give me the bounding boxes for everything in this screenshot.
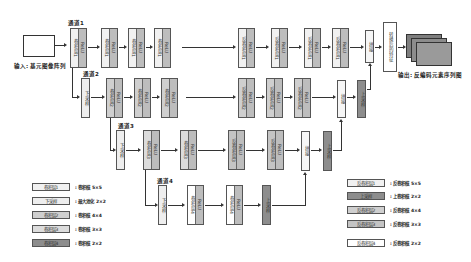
output-stack-front bbox=[416, 42, 452, 66]
concat-block-3: 拼接 bbox=[301, 131, 310, 171]
legend-left-row-2: 下采样 : 最大池化 2×2 bbox=[32, 196, 106, 205]
deconv3-block-a: 反卷积层3 ReLU bbox=[228, 130, 245, 170]
deconv2-block-b: 反卷积层2 ReLU bbox=[266, 78, 283, 118]
conv1-block-b: 卷积层1 ReLU bbox=[101, 28, 118, 68]
channel-3-label: 通道3 bbox=[118, 122, 134, 130]
legend-right-row-5: 反卷积层4 : 反卷积核 2×2 bbox=[347, 238, 421, 247]
channel-4-label: 通道4 bbox=[157, 177, 173, 185]
downsample-block-4: 下采样 bbox=[158, 185, 167, 225]
output-feature-block: 转换后的特征 bbox=[383, 22, 397, 72]
deconv2-block-a: 反卷积层2 ReLU bbox=[238, 78, 255, 118]
deconv1-block-a: 反卷积层1 ReLU bbox=[238, 28, 255, 68]
legend-right-row-4: 反卷积层3 : 反卷积核 3×3 bbox=[347, 219, 421, 228]
conv4-block-b: 卷积层4 ReLU bbox=[226, 185, 243, 225]
deconv3-block-b: 反卷积层3 ReLU bbox=[267, 130, 284, 170]
legend-right-row-3: 反卷积层2 : 反卷积核 4×4 bbox=[347, 205, 421, 214]
conv2-block-c: 卷积层2 ReLU bbox=[161, 78, 178, 118]
deconv1-block-d: 反卷积层1 ReLU bbox=[332, 28, 349, 68]
concat-block-2: 拼接 bbox=[337, 80, 346, 118]
channel-2-label: 通道2 bbox=[83, 70, 99, 78]
deconv1-block-b: 反卷积层1 ReLU bbox=[271, 28, 288, 68]
conv1-block-d: 卷积层1 ReLU bbox=[154, 28, 171, 68]
upsample-block-3: 上采样 bbox=[323, 131, 332, 171]
concat-block-1: 拼接 bbox=[365, 30, 374, 63]
conv3-block-a: 卷积层3 ReLU bbox=[143, 130, 160, 170]
input-image-box bbox=[23, 35, 55, 57]
downsample-block-3: 下采样 bbox=[116, 130, 125, 170]
conv1-block-a: 卷积层1 ReLU bbox=[70, 28, 87, 68]
legend-left-row-1: 卷积层1 : 卷积核 5×5 bbox=[32, 182, 102, 191]
output-label: 输出: 反编码元素序列图 bbox=[398, 71, 462, 79]
channel-1-label: 通道1 bbox=[68, 19, 84, 27]
conv3-block-b: 卷积层3 ReLU bbox=[180, 130, 197, 170]
legend-left-row-5: 卷积层4 : 卷积核 2×2 bbox=[32, 238, 102, 247]
downsample-block-2: 下采样 bbox=[81, 78, 90, 118]
conv2-block-a: 卷积层2 ReLU bbox=[106, 78, 123, 118]
legend-right-row-2: 上采样 : 上卷积核 2×2 bbox=[347, 191, 421, 200]
upsample-block-4: 上采样 bbox=[262, 185, 271, 225]
deconv1-block-c: 反卷积层1 ReLU bbox=[304, 28, 321, 68]
deconv2-block-c: 反卷积层2 ReLU bbox=[294, 78, 311, 118]
conv2-block-b: 卷积层2 ReLU bbox=[134, 78, 151, 118]
legend-left-row-4: 卷积层3 : 卷积核 3×3 bbox=[32, 224, 102, 233]
upsample-block-2: 上采样 bbox=[357, 80, 366, 118]
conv1-block-c: 卷积层1 ReLU bbox=[128, 28, 145, 68]
conv4-block-a: 卷积层4 ReLU bbox=[187, 185, 204, 225]
legend-left-row-3: 卷积层2 : 卷积核 4×4 bbox=[32, 210, 102, 219]
input-label: 输入: 基元图像阵列 bbox=[14, 62, 66, 70]
legend-right-row-1: 反卷积层1 : 反卷积核 5×5 bbox=[347, 178, 421, 187]
